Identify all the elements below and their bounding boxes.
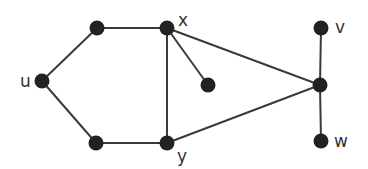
edge-y-h xyxy=(167,85,320,143)
node-label-w: w xyxy=(334,131,348,151)
node-x xyxy=(160,21,175,36)
edges xyxy=(42,28,321,143)
node-label-y: y xyxy=(177,146,187,166)
edge-u-a xyxy=(42,28,97,81)
node-u xyxy=(35,74,50,89)
node-b xyxy=(89,136,104,151)
node-label-u: u xyxy=(20,71,31,91)
edge-v-h xyxy=(320,28,321,85)
node-v xyxy=(314,21,329,36)
node-w xyxy=(314,134,329,149)
node-c xyxy=(201,78,216,93)
node-h xyxy=(313,78,328,93)
node-y xyxy=(160,136,175,151)
edge-x-h xyxy=(167,28,320,85)
edge-h-w xyxy=(320,85,321,141)
edge-u-b xyxy=(42,81,96,143)
node-label-x: x xyxy=(178,10,188,30)
graph-diagram: uxyvw xyxy=(0,0,368,169)
node-label-v: v xyxy=(335,17,345,37)
nodes xyxy=(35,21,329,151)
node-a xyxy=(90,21,105,36)
